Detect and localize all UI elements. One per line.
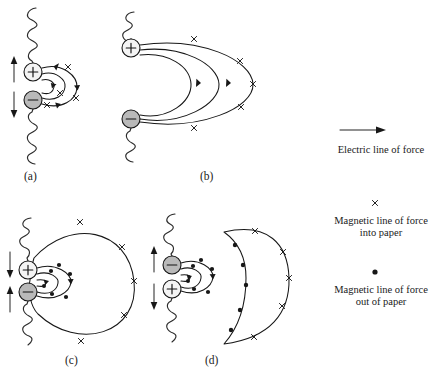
down-arrow-d [151, 284, 158, 310]
legend-item-out-of-paper: Magnetic line of force out of paper [334, 269, 428, 307]
arrow-right-icon [340, 126, 386, 133]
legend: Electric line of force Magnetic line of … [334, 126, 428, 307]
field-lines-c [37, 266, 71, 297]
field-arrowheads-b [196, 79, 231, 87]
positive-charge-b [122, 39, 140, 57]
legend-item-electric: Electric line of force [338, 126, 425, 155]
panel-d: (d) [151, 214, 292, 367]
antenna-coil-a-top [27, 8, 37, 63]
up-arrow-d [151, 246, 158, 272]
down-arrow-a [11, 92, 18, 118]
antenna-coil-a-bottom [27, 109, 37, 164]
positive-charge-a [24, 63, 42, 81]
figure-root: (a) [0, 0, 443, 384]
legend-label-out-of-paper-line2: out of paper [356, 296, 407, 307]
positive-charge-d [163, 280, 181, 298]
up-arrow-c [7, 286, 14, 312]
legend-label-electric: Electric line of force [338, 144, 425, 155]
field-lines-d [181, 261, 213, 292]
antenna-coil-b-bottom [126, 128, 135, 162]
antenna-coil-b-top [123, 12, 134, 42]
legend-label-out-of-paper-line1: Magnetic line of force [334, 284, 428, 295]
physics-diagram-svg: (a) [0, 0, 443, 384]
positive-charge-c [19, 261, 37, 279]
antenna-coil-c-bottom [23, 301, 33, 345]
field-lines-a [42, 67, 77, 106]
cross-icon [372, 200, 377, 205]
legend-label-into-paper-line2: into paper [360, 227, 403, 238]
panel-label-d: (d) [205, 354, 219, 367]
panel-a: (a) [11, 8, 80, 183]
negative-charge-b [122, 110, 140, 128]
legend-label-into-paper-line1: Magnetic line of force [334, 215, 428, 226]
negative-charge-a [24, 91, 42, 109]
panel-b: (b) [122, 12, 256, 183]
negative-charge-d [163, 256, 181, 274]
panel-label-b: (b) [200, 170, 214, 183]
panel-label-a: (a) [24, 170, 37, 183]
dot-icon [372, 269, 377, 274]
up-arrow-a [11, 56, 18, 82]
antenna-coil-d-top [164, 214, 175, 256]
antenna-coil-c-top [20, 218, 31, 261]
magnetic-marks-crescent-d [229, 228, 292, 339]
magnetic-marks-outer-c [77, 219, 136, 343]
panel-c: (c) [7, 218, 137, 367]
negative-charge-c [19, 283, 37, 301]
antenna-coil-d-bottom [167, 298, 177, 342]
magnetic-marks-a [44, 64, 78, 107]
down-arrow-c [7, 252, 14, 278]
magnetic-marks-b [191, 36, 255, 130]
panel-label-c: (c) [65, 354, 78, 367]
legend-item-into-paper: Magnetic line of force into paper [334, 200, 428, 238]
